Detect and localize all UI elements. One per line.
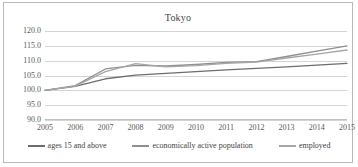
x-axis-tick-label: 2006 bbox=[67, 124, 83, 132]
x-axis-tick-label: 2005 bbox=[37, 124, 53, 132]
series-line bbox=[45, 50, 347, 90]
x-axis-tick-label: 2007 bbox=[97, 124, 113, 132]
x-axis-tick-label: 2013 bbox=[279, 124, 295, 132]
legend-line-icon bbox=[279, 145, 296, 147]
gridline bbox=[45, 120, 347, 121]
legend-item-label: economically active population bbox=[152, 142, 252, 150]
legend-line-icon bbox=[132, 145, 149, 147]
x-axis-tick-label: 2009 bbox=[158, 124, 174, 132]
series-lines bbox=[45, 31, 347, 120]
legend-item-label: employed bbox=[299, 142, 331, 150]
plot-wrapper: 90.095.0100.0105.0110.0115.0120.0 200520… bbox=[4, 3, 354, 164]
x-axis-tick-label: 2011 bbox=[218, 124, 234, 132]
x-axis-tick-label: 2012 bbox=[248, 124, 264, 132]
legend-item[interactable]: ages 15 and above bbox=[28, 142, 107, 150]
chart-frame: Tokyo 90.095.0100.0105.0110.0115.0120.0 … bbox=[3, 2, 353, 163]
legend-item[interactable]: economically active population bbox=[132, 142, 252, 150]
chart-legend: ages 15 and aboveeconomically active pop… bbox=[4, 142, 354, 150]
x-axis-tick-label: 2015 bbox=[339, 124, 355, 132]
y-axis-tick-label: 95.0 bbox=[27, 101, 41, 109]
series-line bbox=[45, 46, 347, 91]
legend-line-icon bbox=[28, 145, 45, 147]
x-axis-tick-label: 2008 bbox=[128, 124, 144, 132]
y-axis-tick-label: 110.0 bbox=[23, 57, 41, 65]
plot-area: 90.095.0100.0105.0110.0115.0120.0 200520… bbox=[45, 31, 347, 120]
y-axis-tick-label: 100.0 bbox=[23, 86, 41, 94]
y-axis-tick-label: 120.0 bbox=[23, 27, 41, 35]
y-axis-tick-label: 115.0 bbox=[23, 42, 41, 50]
x-axis-tick-label: 2014 bbox=[309, 124, 325, 132]
legend-item-label: ages 15 and above bbox=[48, 142, 107, 150]
legend-item[interactable]: employed bbox=[279, 142, 331, 150]
x-axis-tick-label: 2010 bbox=[188, 124, 204, 132]
y-axis-tick-label: 105.0 bbox=[23, 72, 41, 80]
